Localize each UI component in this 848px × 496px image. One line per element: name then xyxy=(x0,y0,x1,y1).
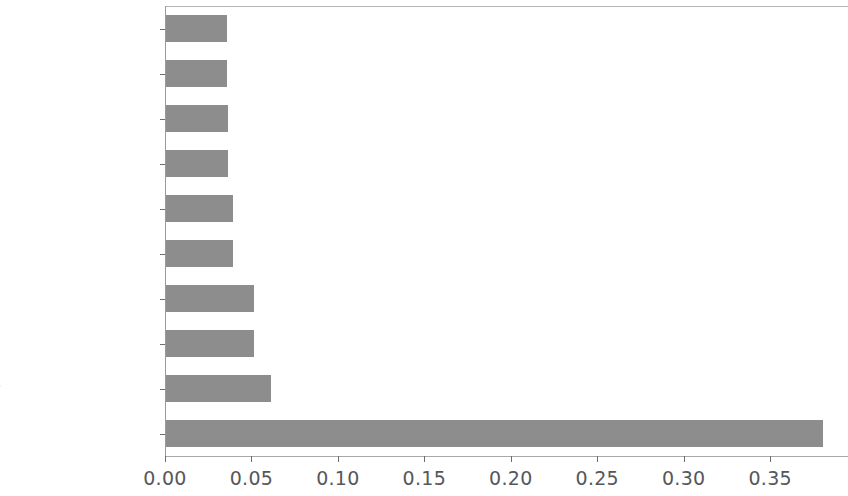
x-tick-mark xyxy=(597,456,598,462)
bar-int_memory xyxy=(166,195,233,222)
plot-area: talk_timesc_wsc_hpcint_memorymobile_wtpx… xyxy=(165,6,848,456)
bar-px_width xyxy=(166,330,254,357)
bar-sc_w xyxy=(166,60,227,87)
y-tick-mark xyxy=(160,29,165,30)
feature-importance-bar-chart: talk_timesc_wsc_hpcint_memorymobile_wtpx… xyxy=(0,0,848,496)
bar-px_height xyxy=(166,285,254,312)
bar-ram xyxy=(166,420,823,447)
x-tick-label-0.20: 0.20 xyxy=(466,467,556,489)
x-tick-mark xyxy=(684,456,685,462)
axis-spine-top xyxy=(165,6,848,7)
x-tick-mark xyxy=(511,456,512,462)
x-tick-label-0.25: 0.25 xyxy=(552,467,642,489)
y-tick-mark xyxy=(160,209,165,210)
axis-spine-bottom xyxy=(165,456,848,457)
x-tick-label-0.05: 0.05 xyxy=(206,467,296,489)
x-tick-mark xyxy=(338,456,339,462)
bar-battery_power xyxy=(166,375,271,402)
bar-mobile_wt xyxy=(166,240,233,267)
x-tick-label-0.15: 0.15 xyxy=(379,467,469,489)
y-tick-mark xyxy=(160,299,165,300)
x-tick-label-0.35: 0.35 xyxy=(725,467,815,489)
y-tick-mark xyxy=(160,389,165,390)
y-tick-mark xyxy=(160,344,165,345)
x-tick-mark xyxy=(770,456,771,462)
bar-sc_h xyxy=(166,105,228,132)
x-tick-label-0.00: 0.00 xyxy=(120,467,210,489)
bar-pc xyxy=(166,150,228,177)
x-tick-mark xyxy=(424,456,425,462)
bar-talk_time xyxy=(166,15,227,42)
x-tick-label-0.30: 0.30 xyxy=(639,467,729,489)
y-tick-mark xyxy=(160,254,165,255)
y-tick-mark xyxy=(160,74,165,75)
y-tick-mark xyxy=(160,434,165,435)
y-tick-mark xyxy=(160,119,165,120)
y-tick-mark xyxy=(160,164,165,165)
x-tick-label-0.10: 0.10 xyxy=(293,467,383,489)
x-tick-mark xyxy=(251,456,252,462)
x-tick-mark xyxy=(165,456,166,462)
